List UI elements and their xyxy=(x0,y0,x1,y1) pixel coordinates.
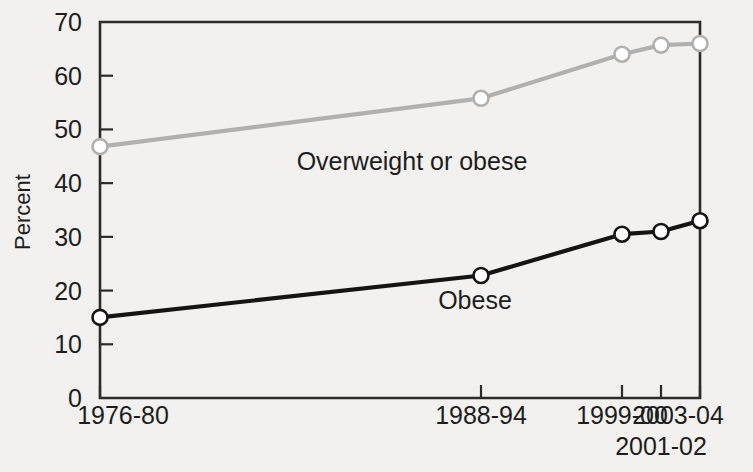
data-point-marker xyxy=(615,227,630,242)
y-axis-tick-label: 30 xyxy=(54,223,82,251)
data-point-marker xyxy=(474,91,489,106)
series-obese xyxy=(93,213,708,325)
data-point-marker xyxy=(615,47,630,62)
x-axis-ticks xyxy=(100,385,700,398)
x-axis-tick-label: 2003-04 xyxy=(632,401,724,429)
x-axis-tick-label: 1976-80 xyxy=(77,401,169,429)
plot-frame xyxy=(100,22,700,398)
series-line xyxy=(100,221,700,318)
series-line xyxy=(100,44,700,147)
y-axis-tick-label: 50 xyxy=(54,115,82,143)
y-axis-title: Percent xyxy=(10,174,35,250)
x-axis-tick-labels: 1976-801988-941999-002001-022003-04 xyxy=(77,401,724,460)
series-annotations: Overweight or obeseObese xyxy=(297,147,528,315)
y-axis-tick-label: 60 xyxy=(54,62,82,90)
data-point-marker xyxy=(654,38,669,53)
y-axis-tick-label: 70 xyxy=(54,8,82,36)
series-overweight-or-obese xyxy=(93,36,708,154)
x-axis-tick-label-second-row: 2001-02 xyxy=(615,432,707,460)
series-annotation-label: Obese xyxy=(438,286,512,314)
y-axis-tick-label: 40 xyxy=(54,169,82,197)
y-axis-tick-label: 10 xyxy=(54,330,82,358)
data-point-marker xyxy=(693,36,708,51)
data-point-marker xyxy=(693,213,708,228)
y-axis-tick-labels: 010203040506070 xyxy=(54,8,82,412)
chart-container: Percent 010203040506070 1976-801988-9419… xyxy=(0,0,753,472)
series-annotation-label: Overweight or obese xyxy=(297,147,528,175)
data-point-marker xyxy=(654,224,669,239)
data-point-marker xyxy=(93,139,108,154)
data-point-marker xyxy=(474,268,489,283)
x-axis-tick-label: 1988-94 xyxy=(435,401,527,429)
line-chart: Percent 010203040506070 1976-801988-9419… xyxy=(0,0,753,472)
y-axis-ticks xyxy=(100,76,113,345)
data-series-group xyxy=(93,36,708,325)
data-point-marker xyxy=(93,310,108,325)
y-axis-tick-label: 20 xyxy=(54,277,82,305)
